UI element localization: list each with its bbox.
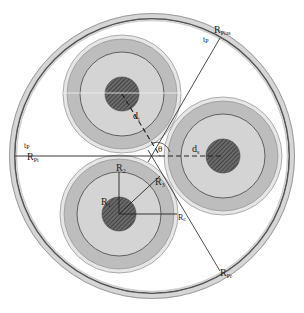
label-r-pias: RPias xyxy=(214,24,231,36)
label-t-p-top: tP xyxy=(203,35,209,44)
label-r-pi: RPi xyxy=(27,151,39,163)
label-t-p-left: tP xyxy=(24,141,30,150)
label-r-c: Rc xyxy=(178,213,186,222)
three-core-pipe-cable-diagram: RPias tP tP RPi RPr di ds θ R2 R3 R1 xyxy=(0,0,304,313)
cable-right xyxy=(164,97,282,215)
label-theta: θ xyxy=(158,144,162,154)
